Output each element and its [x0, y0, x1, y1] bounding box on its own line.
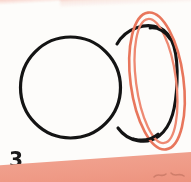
figure-number-label: 3	[9, 149, 23, 171]
sketch-page: 3	[0, 0, 191, 182]
ring-top-overlap	[150, 28, 170, 39]
highlight-ring-outer	[122, 9, 191, 153]
sphere-circle	[21, 37, 121, 138]
figure-drawing	[0, 0, 191, 182]
highlight-ring-inner	[128, 16, 184, 145]
